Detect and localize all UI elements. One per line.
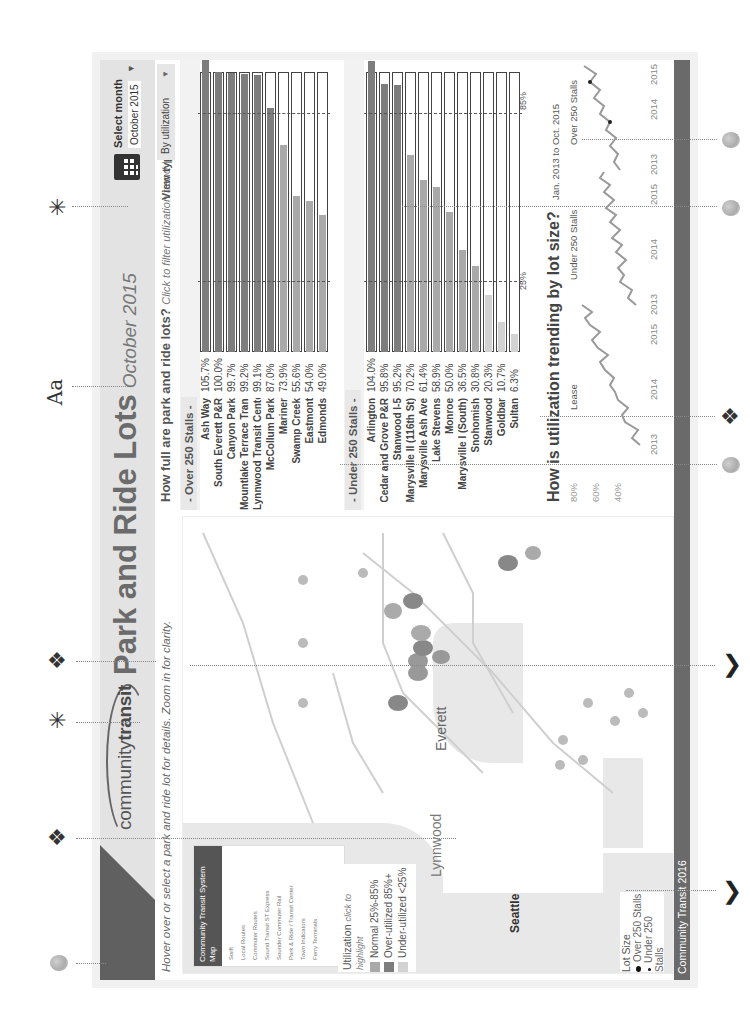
bar-value: 10.7% [496,352,507,392]
annotation-line [76,963,106,964]
lot-size-label: Over 250 Stalls [632,894,643,962]
bar-fill[interactable] [511,334,518,352]
logo-part2: transit [114,685,135,741]
annotation-line [76,661,156,662]
bar-row[interactable]: Canyon Park99.7% [226,60,238,510]
bar-fill[interactable] [446,212,453,352]
bar-fill[interactable] [306,201,313,352]
bar-fill[interactable] [368,61,375,352]
bar-value: 30.8% [470,352,481,392]
legend-under-utilized[interactable]: Under-utilized <25% [397,864,408,972]
bar-label: Eastmont [304,398,315,510]
month-select-value[interactable]: October 2015 [128,81,141,148]
bar-row[interactable]: Marysville Ash Ave61.4% [418,60,430,510]
over250-bar-chart[interactable]: Ash Way105.7%South Everett P&R100.0%Cany… [200,60,330,510]
bar-label: McCollum Park [265,398,276,510]
lot-size-under[interactable]: Under 250 Stalls [643,892,665,972]
bar-row[interactable]: Swamp Creek55.6% [291,60,303,510]
view-type-dropdown[interactable]: By utilization ▼ [157,64,175,160]
bar-label: South Everett P&R [213,398,224,510]
bar-row[interactable]: Edmonds49.0% [317,60,329,510]
bar-label: Lake Stevens [431,398,442,510]
bar-row[interactable]: McCollum Park87.0% [265,60,277,510]
under250-bar-chart[interactable]: Arlington104.0%Cedar and Grove P&R95.8%S… [366,60,526,510]
bar-label: Sultan [509,398,520,510]
bar-row[interactable]: Ash Way105.7% [200,60,212,510]
bar-fill[interactable] [280,145,287,352]
bar-fill[interactable] [498,322,505,352]
bubble-annotation-icon [722,200,740,216]
bar-row[interactable]: Goldbar10.7% [496,60,508,510]
trend-lines[interactable] [570,60,660,470]
legend-over-utilized[interactable]: Over-utilized 85%+ [383,864,394,972]
bar-row[interactable]: Cedar and Grove P&R95.8% [379,60,391,510]
x-tick: 2015 [648,324,659,345]
bubble-annotation-icon [722,457,740,473]
bar-row[interactable]: South Everett P&R100.0% [213,60,225,510]
x-tick: 2015 [648,64,659,85]
bar-row[interactable]: Arlington104.0% [366,60,378,510]
bar-fill[interactable] [485,295,492,352]
reference-line-25 [198,281,330,282]
bar-fill[interactable] [433,187,440,352]
community-transit-logo[interactable]: communitytransit [114,685,136,830]
bar-row[interactable]: Lake Stevens58.9% [431,60,443,510]
bar-row[interactable]: Lynnwood Transit Center99.1% [252,60,264,510]
bar-fill[interactable] [267,108,274,352]
bar-value: 58.9% [431,352,442,392]
knot-annotation-icon: ❖ [47,648,67,673]
header-bar: communitytransit Park and Ride LotsOctob… [100,60,155,980]
bar-row[interactable]: Marysville I (South)36.5% [457,60,469,510]
bar-row[interactable]: Monroe50.0% [444,60,456,510]
bar-fill[interactable] [241,74,248,352]
month-select[interactable]: Select month October 2015 ▼ [108,62,148,180]
x-tick: 2013 [648,294,659,315]
legend-label: Under-utilized <25% [397,868,408,958]
asterisk-annotation-icon: ✳ [48,195,66,220]
bar-fill[interactable] [319,215,326,352]
bar-label: Edmonds [317,398,328,510]
legend-normal[interactable]: Normal 25%-85% [369,864,380,972]
bar-fill[interactable] [407,155,414,352]
bar-chart-question: How full are park and ride lots? Click t… [158,161,173,502]
annotation-line [540,416,715,417]
bar-fill[interactable] [459,250,466,352]
bar-row[interactable]: Stanwood20.3% [483,60,495,510]
lot-size-legend: Lot Size Over 250 Stalls Under 250 Stall… [620,892,664,972]
over250-header[interactable]: - Over 250 Stalls - [181,397,197,510]
bar-label: Mariner [278,398,289,510]
bar-fill[interactable] [293,196,300,352]
bar-row[interactable]: Mariner73.9% [278,60,290,510]
bar-row[interactable]: Eastmont54.0% [304,60,316,510]
bar-fill[interactable] [215,72,222,352]
bar-fill[interactable] [202,60,209,352]
y-tick: 40% [612,483,623,502]
bar-label: Marysville II (116th St) [405,398,416,510]
bar-fill[interactable] [394,85,401,352]
chevron-down-icon[interactable]: ▼ [126,64,136,73]
bar-row[interactable]: Mountlake Terrace Transit Cent..99.2% [239,60,251,510]
bar-label: Lynnwood Transit Center [252,398,263,510]
bar-value: 49.0% [317,352,328,392]
lot-size-label: Under 250 Stalls [643,916,665,972]
utilization-legend-title: Utilization click to highlight [341,864,365,970]
lot-size-over[interactable]: Over 250 Stalls [632,892,643,972]
under250-header[interactable]: - Under 250 Stalls - [345,390,361,510]
bar-fill[interactable] [228,73,235,352]
bar-row[interactable]: Marysville II (116th St)70.2% [405,60,417,510]
trend-title: How is utilization trending by lot size? [545,211,563,502]
bar-value: 105.7% [200,352,211,392]
bar-label: Mountlake Terrace Transit Cent.. [239,398,250,510]
bar-fill[interactable] [472,266,479,352]
question-text: How full are park and ride lots? [158,308,173,502]
annotation-line [76,722,140,723]
bar-row[interactable]: Snohomish30.8% [470,60,482,510]
bar-row[interactable]: Stanwood I-595.2% [392,60,404,510]
bar-fill[interactable] [381,84,388,352]
bar-label: Ash Way [200,398,211,510]
bar-fill[interactable] [254,75,261,352]
transit-map[interactable]: Community Transit System Map Swift Local… [182,516,674,974]
bar-value: 54.0% [304,352,315,392]
swatch-under [398,962,408,972]
chevron-annotation-icon: ❯ [722,650,742,678]
